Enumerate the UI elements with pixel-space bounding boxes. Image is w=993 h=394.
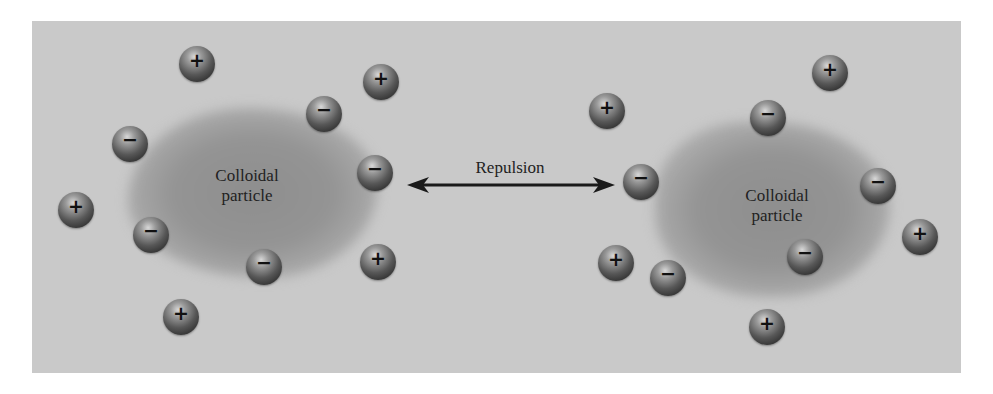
negative-ion-icon: − bbox=[306, 96, 342, 132]
positive-ion-icon: + bbox=[179, 46, 215, 82]
minus-sign: − bbox=[797, 243, 813, 262]
minus-sign: − bbox=[143, 221, 159, 240]
negative-ion-icon: − bbox=[112, 126, 148, 162]
plus-sign: + bbox=[608, 250, 624, 269]
minus-sign: − bbox=[760, 104, 776, 123]
plus-sign: + bbox=[822, 60, 838, 79]
plus-sign: + bbox=[759, 314, 775, 333]
plus-sign: + bbox=[173, 304, 189, 323]
minus-sign: − bbox=[122, 130, 138, 149]
plus-sign: + bbox=[189, 51, 205, 70]
plus-sign: + bbox=[912, 224, 928, 243]
positive-ion-icon: + bbox=[598, 245, 634, 281]
positive-ion-icon: + bbox=[812, 55, 848, 91]
right-particle-label-line1: Colloidal bbox=[745, 186, 808, 206]
negative-ion-icon: − bbox=[357, 155, 393, 191]
negative-ion-icon: − bbox=[133, 217, 169, 253]
negative-ion-icon: − bbox=[623, 164, 659, 200]
negative-ion-icon: − bbox=[787, 239, 823, 275]
plus-sign: + bbox=[370, 249, 386, 268]
right-particle-label-line2: particle bbox=[745, 206, 808, 226]
minus-sign: − bbox=[870, 172, 886, 191]
positive-ion-icon: + bbox=[589, 93, 625, 129]
negative-ion-icon: − bbox=[650, 260, 686, 296]
minus-sign: − bbox=[660, 264, 676, 283]
left-particle-label: Colloidal particle bbox=[215, 166, 278, 206]
negative-ion-icon: − bbox=[860, 168, 896, 204]
plus-sign: + bbox=[373, 69, 389, 88]
left-particle-label-line1: Colloidal bbox=[215, 166, 278, 186]
negative-ion-icon: − bbox=[750, 100, 786, 136]
plus-sign: + bbox=[68, 197, 84, 216]
left-particle-label-line2: particle bbox=[215, 186, 278, 206]
positive-ion-icon: + bbox=[163, 299, 199, 335]
right-particle-label: Colloidal particle bbox=[745, 186, 808, 226]
positive-ion-icon: + bbox=[902, 219, 938, 255]
double-arrow-icon bbox=[405, 174, 617, 196]
positive-ion-icon: + bbox=[749, 309, 785, 345]
minus-sign: − bbox=[633, 168, 649, 187]
positive-ion-icon: + bbox=[360, 244, 396, 280]
minus-sign: − bbox=[256, 253, 272, 272]
positive-ion-icon: + bbox=[58, 192, 94, 228]
minus-sign: − bbox=[316, 100, 332, 119]
negative-ion-icon: − bbox=[246, 249, 282, 285]
minus-sign: − bbox=[367, 159, 383, 178]
positive-ion-icon: + bbox=[363, 64, 399, 100]
plus-sign: + bbox=[599, 98, 615, 117]
